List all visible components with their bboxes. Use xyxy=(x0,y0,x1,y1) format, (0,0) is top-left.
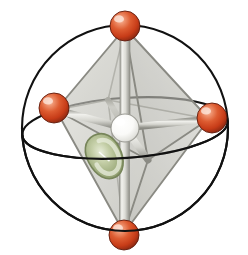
octahedral-complex-diagram xyxy=(0,0,248,255)
ligand-left xyxy=(39,93,69,123)
central-atom-specular-highlight xyxy=(115,118,125,126)
octahedral-complex-figure: Octahedral coordination complex with d-o… xyxy=(0,0,248,255)
central-atom xyxy=(111,114,139,142)
central-atom-sphere xyxy=(111,114,139,142)
ligand-top xyxy=(110,11,140,41)
ligand-bottom xyxy=(109,220,139,250)
ligand-right xyxy=(197,103,227,133)
